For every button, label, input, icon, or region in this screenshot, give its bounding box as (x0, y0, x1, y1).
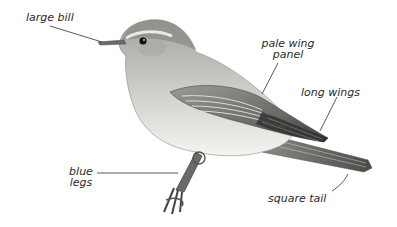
label-pale-wing-panel: pale wing panel (257, 38, 319, 60)
label-blue-legs-line2: legs (64, 177, 98, 188)
label-long-wings: long wings (301, 87, 360, 98)
label-pale-wing-panel-line2: panel (257, 49, 319, 60)
label-large-bill: large bill (26, 12, 74, 23)
bill (98, 40, 126, 45)
label-blue-legs: blue legs (64, 166, 98, 188)
bird-illustration (0, 0, 397, 227)
eye (139, 37, 146, 44)
label-square-tail: square tail (268, 193, 326, 204)
leg-shape (164, 152, 205, 214)
bird-diagram: large bill pale wing panel long wings bl… (0, 0, 397, 227)
